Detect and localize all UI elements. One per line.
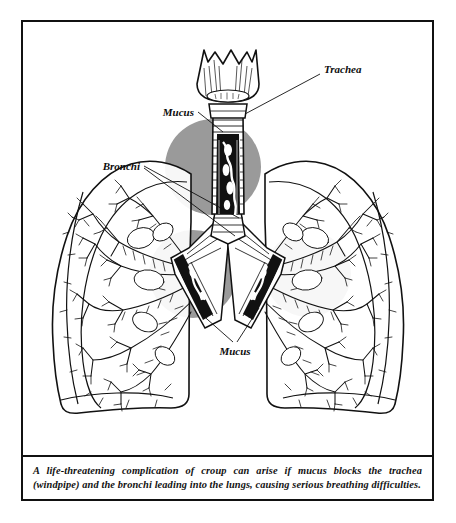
larynx-lumen bbox=[207, 90, 249, 102]
caption-box: A life-threatening complication of croup… bbox=[23, 455, 432, 499]
label-mucus-upper: Mucus bbox=[162, 106, 194, 118]
carina bbox=[211, 212, 245, 244]
label-bronchi: Bronchi bbox=[102, 160, 141, 172]
respiratory-system-illustration: Trachea Mucus Bronchi Mucus bbox=[23, 22, 432, 455]
label-mucus-lower: Mucus bbox=[218, 345, 250, 357]
illustration-area: Trachea Mucus Bronchi Mucus bbox=[23, 22, 432, 455]
label-trachea: Trachea bbox=[324, 63, 362, 75]
right-lung-outline bbox=[265, 161, 403, 413]
figure-caption: A life-threatening complication of croup… bbox=[33, 464, 422, 492]
left-lung-outline bbox=[53, 161, 191, 413]
figure-frame: Trachea Mucus Bronchi Mucus A life-threa… bbox=[21, 20, 434, 501]
